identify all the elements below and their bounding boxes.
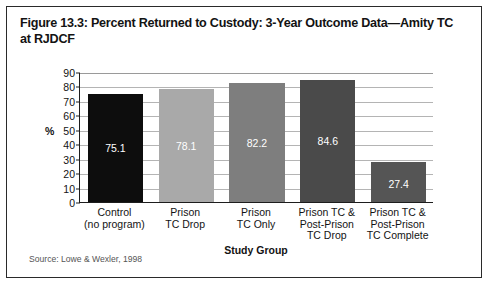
bar[interactable]: 78.1: [159, 89, 214, 202]
category-label-line: TC Only: [237, 218, 276, 230]
category-label-line: TC Drop: [165, 218, 205, 230]
y-axis-title: %: [45, 125, 54, 137]
y-tick-label: 20: [63, 168, 75, 180]
plot-area: 0102030405060708090 75.178.182.284.627.4: [79, 73, 433, 203]
category-label-line: Prison TC &: [369, 206, 425, 218]
category-label-line: TC Complete: [367, 229, 429, 241]
x-axis-category-label: Prison TC &Post-PrisonTC Drop: [291, 207, 362, 242]
category-label-line: Post-Prison: [300, 218, 354, 230]
bar[interactable]: 75.1: [88, 94, 143, 202]
bar[interactable]: 84.6: [300, 80, 355, 202]
bar-value-label: 75.1: [88, 142, 143, 154]
figure-frame: Figure 13.3: Percent Returned to Custody…: [6, 6, 482, 278]
y-tick-label: 30: [63, 154, 75, 166]
y-tick-label: 60: [63, 110, 75, 122]
bars-layer: 75.178.182.284.627.4: [80, 73, 433, 202]
category-label-line: TC Drop: [307, 229, 347, 241]
y-tick-label: 80: [63, 81, 75, 93]
category-label-line: Post-Prison: [370, 218, 424, 230]
category-label-line: Prison TC &: [299, 206, 355, 218]
y-tick-label: 70: [63, 96, 75, 108]
x-axis-category-label: Control(no program): [79, 207, 150, 230]
y-tick-mark: [76, 203, 80, 204]
bar-value-label: 78.1: [159, 140, 214, 152]
category-label-line: Prison: [241, 206, 271, 218]
bar-value-label: 84.6: [300, 135, 355, 147]
x-axis-category-label: PrisonTC Only: [221, 207, 292, 230]
bar-value-label: 27.4: [371, 178, 426, 190]
source-note: Source: Lowe & Wexler, 1998: [29, 254, 142, 264]
x-axis-category-label: PrisonTC Drop: [150, 207, 221, 230]
y-tick-label: 40: [63, 139, 75, 151]
bar[interactable]: 27.4: [371, 162, 426, 202]
y-tick-label: 50: [63, 125, 75, 137]
y-tick-label: 0: [69, 197, 75, 209]
bar-value-label: 82.2: [229, 137, 284, 149]
category-label-line: (no program): [84, 218, 145, 230]
y-tick-label: 90: [63, 67, 75, 79]
figure-title: Figure 13.3: Percent Returned to Custody…: [20, 16, 460, 47]
chart-plot-region: 0102030405060708090 75.178.182.284.627.4…: [79, 73, 433, 203]
category-label-line: Control: [97, 206, 131, 218]
y-tick-label: 10: [63, 183, 75, 195]
category-label-line: Prison: [170, 206, 200, 218]
x-axis-category-label: Prison TC &Post-PrisonTC Complete: [362, 207, 433, 242]
bar[interactable]: 82.2: [229, 83, 284, 202]
